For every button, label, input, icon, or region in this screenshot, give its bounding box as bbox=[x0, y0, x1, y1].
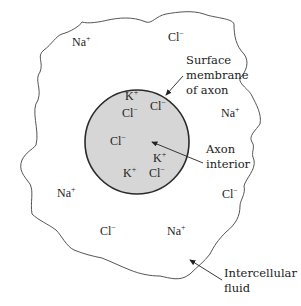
ion-na: Na+ bbox=[167, 223, 186, 238]
ion-na: Na+ bbox=[221, 105, 240, 120]
ion-cl: Cl− bbox=[168, 29, 184, 44]
svg-text:membrane: membrane bbox=[186, 68, 249, 82]
svg-text:Axon: Axon bbox=[205, 142, 236, 156]
axon-diagram: Na+ Cl− Na+ Na+ Cl− Na+ Cl− K+ Cl− Cl− C… bbox=[0, 0, 301, 306]
ion-na: Na+ bbox=[57, 185, 76, 200]
membrane-label: Surface membrane of axon bbox=[166, 53, 249, 97]
svg-text:fluid: fluid bbox=[224, 281, 251, 295]
ion-cl: Cl− bbox=[100, 223, 116, 238]
fluid-label: Intercellular fluid bbox=[190, 260, 297, 295]
svg-text:Surface: Surface bbox=[186, 53, 231, 67]
svg-text:of axon: of axon bbox=[186, 83, 229, 97]
svg-text:Intercellular: Intercellular bbox=[224, 266, 297, 280]
svg-text:interior: interior bbox=[206, 157, 251, 171]
ion-na: Na+ bbox=[72, 34, 91, 49]
membrane-arrow bbox=[166, 76, 183, 95]
ion-cl: Cl− bbox=[222, 186, 238, 201]
